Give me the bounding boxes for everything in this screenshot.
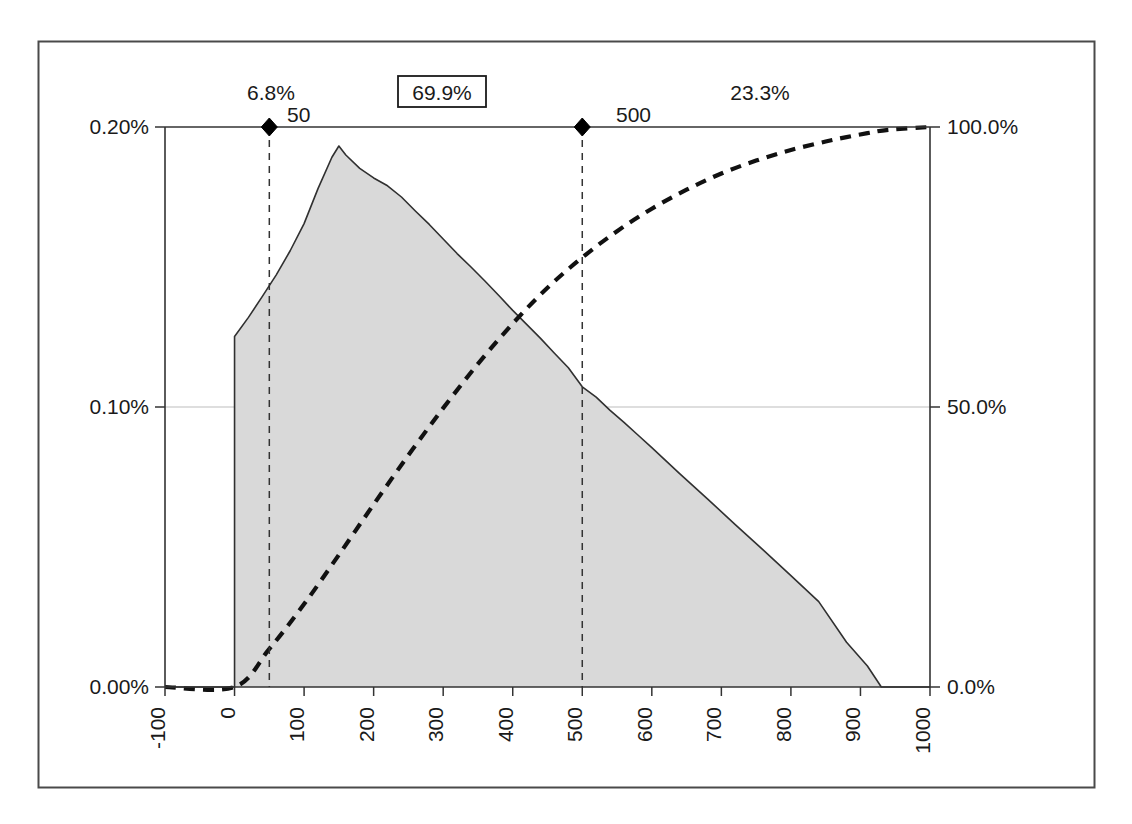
x-tick-label: 300 [424,707,447,742]
upper-marker-value-label: 500 [616,103,651,126]
left-y-axis-ticks: 0.00%0.10%0.20% [89,115,165,698]
right-y-tick-label: 50.0% [947,395,1007,418]
left-y-tick-label: 0.00% [89,675,149,698]
x-tick-label: 200 [355,707,378,742]
x-tick-label: 400 [494,707,517,742]
percentage-annotations: 6.8% 69.9% 23.3% 50 500 [247,76,790,126]
x-tick-label: 800 [772,707,795,742]
x-tick-label: 500 [563,707,586,742]
left-y-tick-label: 0.10% [89,395,149,418]
x-tick-label: 0 [216,707,239,719]
x-tick-label: 900 [841,707,864,742]
x-tick-label: -100 [146,707,169,749]
x-tick-label: 100 [285,707,308,742]
right-y-tick-label: 100.0% [947,115,1018,138]
right-y-tick-label: 0.0% [947,675,995,698]
right-y-axis-ticks: 0.0%50.0%100.0% [930,115,1018,698]
left-tail-percent-label: 6.8% [247,81,295,104]
x-axis-ticks: -10001002003004005006007008009001000 [146,687,934,754]
left-y-tick-label: 0.20% [89,115,149,138]
right-tail-percent-label: 23.3% [730,81,790,104]
center-percent-label: 69.9% [412,81,472,104]
lower-marker-value-label: 50 [287,103,310,126]
x-tick-label: 600 [633,707,656,742]
chart-canvas: -10001002003004005006007008009001000 0.0… [0,0,1132,824]
x-tick-label: 700 [702,707,725,742]
distribution-chart: -10001002003004005006007008009001000 0.0… [0,0,1132,824]
x-tick-label: 1000 [911,707,934,754]
